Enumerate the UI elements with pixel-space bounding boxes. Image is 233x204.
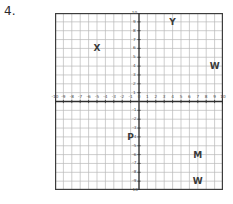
worksheet-page: 4. XYWPMW -10-9-8-7-6-5-4-3-2-1012345678… bbox=[0, 0, 233, 204]
x-tick-6: 6 bbox=[188, 95, 191, 99]
x-tick-neg2: -2 bbox=[120, 95, 124, 99]
x-tick-8: 8 bbox=[205, 95, 208, 99]
y-tick-neg2: -2 bbox=[132, 117, 136, 121]
x-tick-neg4: -4 bbox=[103, 95, 107, 99]
y-tick-neg4: -4 bbox=[132, 135, 136, 139]
point-label-w-2: W bbox=[210, 62, 220, 71]
x-tick-1: 1 bbox=[146, 95, 149, 99]
x-tick-neg1: -1 bbox=[129, 95, 133, 99]
x-tick-neg5: -5 bbox=[95, 95, 99, 99]
y-tick-neg1: -1 bbox=[132, 108, 136, 112]
y-tick-2: 2 bbox=[133, 82, 136, 86]
y-tick-6: 6 bbox=[133, 46, 136, 50]
y-tick-neg3: -3 bbox=[132, 126, 136, 130]
y-tick-neg9: -9 bbox=[132, 179, 136, 183]
x-tick-9: 9 bbox=[213, 95, 216, 99]
y-tick-neg10: -10 bbox=[131, 188, 138, 192]
point-label-m-4: M bbox=[193, 150, 202, 159]
x-tick-neg3: -3 bbox=[112, 95, 116, 99]
y-tick-3: 3 bbox=[133, 73, 136, 77]
x-tick-4: 4 bbox=[171, 95, 174, 99]
y-tick-neg8: -8 bbox=[132, 170, 136, 174]
x-tick-7: 7 bbox=[196, 95, 199, 99]
x-tick-neg8: -8 bbox=[70, 95, 74, 99]
y-tick-neg6: -6 bbox=[132, 152, 136, 156]
problem-number: 4. bbox=[4, 4, 15, 18]
coordinate-plane: XYWPMW -10-9-8-7-6-5-4-3-2-1012345678910… bbox=[55, 13, 223, 190]
x-tick-0: 0 bbox=[138, 95, 141, 99]
y-tick-7: 7 bbox=[133, 37, 136, 41]
y-tick-4: 4 bbox=[133, 64, 136, 68]
x-tick-neg9: -9 bbox=[61, 95, 65, 99]
point-label-w-5: W bbox=[193, 177, 203, 186]
x-tick-neg7: -7 bbox=[78, 95, 82, 99]
x-tick-neg6: -6 bbox=[87, 95, 91, 99]
x-tick-10: 10 bbox=[220, 95, 225, 99]
x-tick-2: 2 bbox=[154, 95, 157, 99]
x-tick-neg10: -10 bbox=[52, 95, 59, 99]
x-tick-5: 5 bbox=[180, 95, 183, 99]
y-tick-8: 8 bbox=[133, 29, 136, 33]
point-label-y-1: Y bbox=[169, 17, 176, 26]
y-tick-neg7: -7 bbox=[132, 161, 136, 165]
y-tick-1: 1 bbox=[133, 91, 136, 95]
y-tick-9: 9 bbox=[133, 20, 136, 24]
grid-svg bbox=[55, 13, 223, 190]
y-tick-10: 10 bbox=[132, 11, 137, 15]
x-tick-3: 3 bbox=[163, 95, 166, 99]
y-tick-neg5: -5 bbox=[132, 144, 136, 148]
y-tick-5: 5 bbox=[133, 55, 136, 59]
point-label-x-0: X bbox=[94, 44, 101, 53]
